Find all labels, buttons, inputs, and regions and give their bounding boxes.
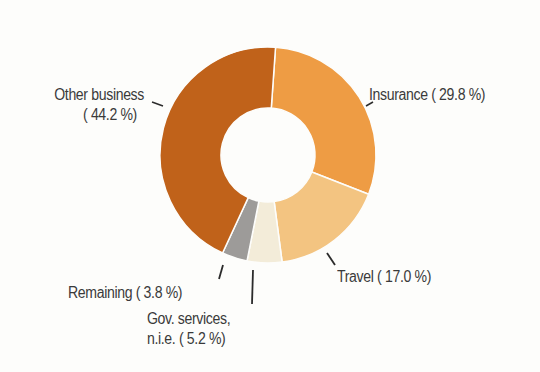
donut-chart-graphic (0, 0, 540, 372)
leader-line-remaining (219, 265, 223, 279)
label-insurance: Insurance ( 29.8 %) (369, 85, 485, 105)
label-gov-services-name: Gov. services, (147, 309, 230, 329)
label-other-business-value: ( 44.2 %) (3, 105, 144, 125)
slice-insurance (271, 47, 376, 194)
label-other-business: Other business ( 44.2 %) (3, 85, 144, 125)
leader-line-travel (327, 253, 335, 265)
donut-chart: Other business ( 44.2 %) Insurance ( 29.… (0, 0, 540, 372)
leader-line-gov-services (252, 270, 253, 304)
label-travel: Travel ( 17.0 %) (337, 267, 431, 287)
donut-slices (160, 47, 376, 263)
label-gov-services: Gov. services, n.i.e. ( 5.2 %) (147, 309, 230, 349)
label-remaining: Remaining ( 3.8 %) (68, 283, 182, 303)
label-other-business-name: Other business (3, 85, 144, 105)
leader-line-other-business (152, 102, 163, 106)
label-remaining-text: Remaining ( 3.8 %) (68, 283, 182, 303)
label-travel-text: Travel ( 17.0 %) (337, 267, 431, 287)
label-insurance-text: Insurance ( 29.8 %) (369, 85, 485, 105)
label-gov-services-value: n.i.e. ( 5.2 %) (147, 329, 230, 349)
